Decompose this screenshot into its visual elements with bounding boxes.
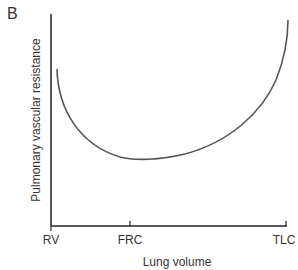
x-axis-label: Lung volume [143,255,212,269]
tick-label-rv: RV [43,233,59,247]
tick-label-tlc: TLC [273,233,296,247]
pvr-curve [57,20,288,159]
tick-label-frc: FRC [118,233,143,247]
chart-plot [0,0,298,270]
